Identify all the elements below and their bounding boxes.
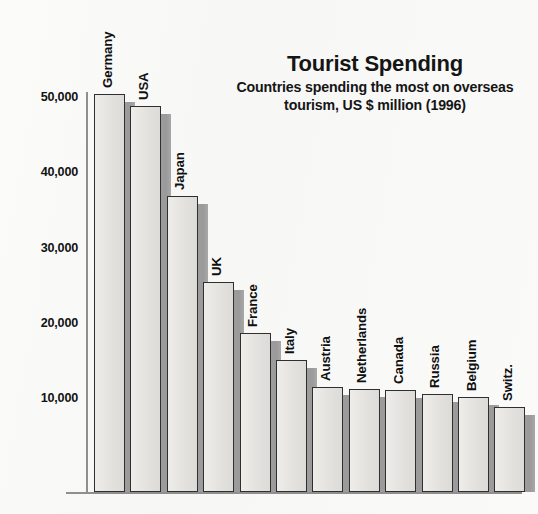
bar-face xyxy=(130,106,161,492)
x-axis-line xyxy=(66,492,522,494)
y-tick-label: 30,000 xyxy=(41,241,78,255)
bar-face xyxy=(94,94,125,492)
chart-screenshot: Tourist Spending Countries spending the … xyxy=(0,0,538,514)
bar-chart: Tourist Spending Countries spending the … xyxy=(0,0,538,514)
bar-category-label: France xyxy=(245,285,260,328)
bar-category-label: USA xyxy=(136,72,151,100)
bar-switz[interactable]: Switz. xyxy=(494,407,537,492)
bar-category-label: Russia xyxy=(427,345,442,388)
bar-face xyxy=(167,196,198,492)
y-tick-label: 20,000 xyxy=(41,316,78,330)
bar-face xyxy=(203,282,234,492)
y-tick-label: 10,000 xyxy=(41,391,78,405)
bar-category-label: Netherlands xyxy=(354,308,369,383)
bar-face xyxy=(349,389,380,492)
bar-face xyxy=(494,407,525,492)
chart-subtitle: Countries spending the most on overseas … xyxy=(230,79,520,115)
bar-category-label: Austria xyxy=(318,336,333,381)
bar-face xyxy=(458,397,489,493)
bar-face xyxy=(422,394,453,493)
bar-category-label: UK xyxy=(209,257,224,276)
bar-category-label: Germany xyxy=(100,32,115,88)
bar-face xyxy=(385,390,416,492)
bar-category-label: Canada xyxy=(391,337,406,384)
y-tick-label: 40,000 xyxy=(41,165,78,179)
y-axis-line xyxy=(86,92,88,494)
chart-title: Tourist Spending xyxy=(230,52,520,75)
bar-category-label: Japan xyxy=(172,152,187,190)
bar-category-label: Italy xyxy=(282,328,297,354)
title-block: Tourist Spending Countries spending the … xyxy=(230,52,520,115)
y-tick-label: 50,000 xyxy=(41,90,78,104)
bar-face xyxy=(276,360,307,492)
bar-category-label: Switz. xyxy=(500,364,515,401)
bar-face xyxy=(240,333,271,492)
bar-face xyxy=(312,387,343,492)
bar-category-label: Belgium xyxy=(464,339,479,390)
